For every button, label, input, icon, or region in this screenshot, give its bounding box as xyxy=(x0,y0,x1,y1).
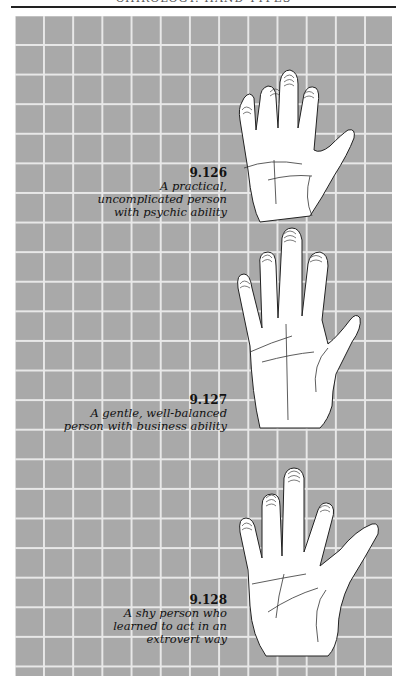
figure-description: A practical, uncomplicated person with p… xyxy=(80,180,227,219)
figure-description: A gentle, well-balanced person with busi… xyxy=(40,407,227,433)
header-rule xyxy=(11,6,396,8)
figure-caption-9-126: 9.126 A practical, uncomplicated person … xyxy=(80,167,227,219)
hand-illustration-9-128 xyxy=(232,466,382,661)
figure-caption-9-128: 9.128 A shy person who learned to act in… xyxy=(80,594,227,646)
running-head: CHIROLOGY: HAND TYPES xyxy=(0,0,407,5)
figure-caption-9-127: 9.127 A gentle, well-balanced person wit… xyxy=(40,394,227,433)
hand-illustration-9-126 xyxy=(230,58,360,223)
figure-description: A shy person who learned to act in an ex… xyxy=(80,607,227,646)
hand-illustration-9-127 xyxy=(232,224,362,434)
